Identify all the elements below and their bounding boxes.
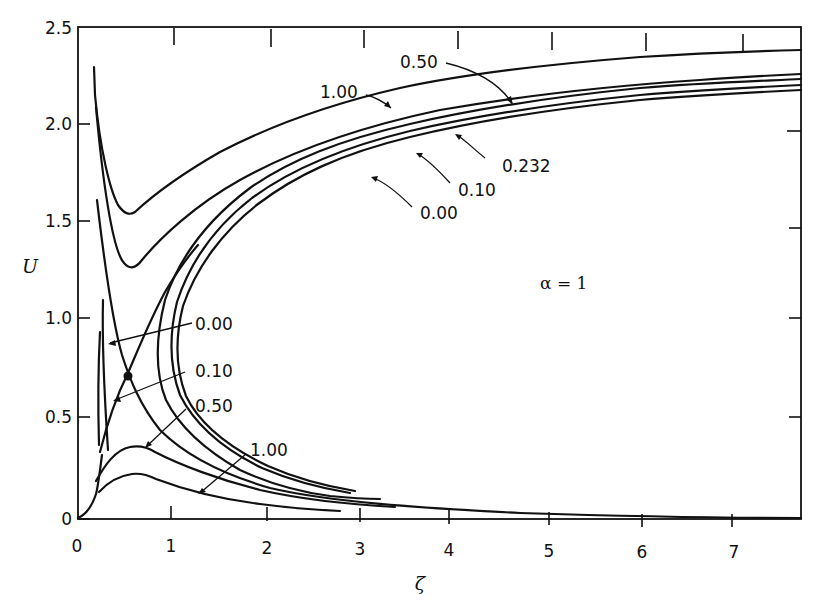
x-tick-5: 5 <box>544 541 555 561</box>
label-lower-0.00: 0.00 <box>195 314 233 334</box>
x-axis-top-ticks <box>174 28 743 52</box>
curve-upper-0.10 <box>172 85 801 493</box>
leader-upper-0.00 <box>373 178 412 207</box>
label-upper-0.232: 0.232 <box>502 156 551 176</box>
label-upper-0.50: 0.50 <box>400 52 438 72</box>
upper-curves <box>94 50 801 499</box>
plot-frame <box>78 27 801 519</box>
chart: 0 0.5 1.0 1.5 2.0 2.5 U 0 1 2 3 4 5 6 7 … <box>0 0 819 605</box>
curve-origin <box>78 455 102 518</box>
x-tick-6: 6 <box>637 542 648 562</box>
x-tick-7: 7 <box>729 542 740 562</box>
label-upper-0.00: 0.00 <box>420 203 458 223</box>
y-axis: 0 0.5 1.0 1.5 2.0 2.5 U <box>22 18 90 529</box>
y-tick-2.5: 2.5 <box>45 18 72 38</box>
y-tick-0: 0 <box>61 509 72 529</box>
leader-lower-0.50 <box>147 409 186 446</box>
x-tick-2: 2 <box>262 538 273 558</box>
y-tick-1.0: 1.0 <box>45 308 72 328</box>
lower-curves <box>78 446 395 518</box>
label-lower-0.10: 0.10 <box>195 361 233 381</box>
x-tick-4: 4 <box>444 540 455 560</box>
critical-point-marker <box>124 372 133 381</box>
alpha-annotation: α = 1 <box>540 273 587 293</box>
x-tick-1: 1 <box>166 536 177 556</box>
y-tick-1.5: 1.5 <box>45 211 72 231</box>
curve-upper-0.232 <box>158 79 801 499</box>
curve-left-0.00 <box>98 332 100 445</box>
y-axis-right-ticks <box>787 131 801 417</box>
upper-annotations: 1.00 0.50 0.232 0.10 0.00 <box>320 52 551 223</box>
y-tick-0.5: 0.5 <box>45 407 72 427</box>
curve-left-0.10 <box>103 300 108 450</box>
label-upper-1.00: 1.00 <box>320 82 358 102</box>
x-tick-0: 0 <box>72 536 83 556</box>
x-axis-title: ζ <box>415 572 427 594</box>
label-lower-1.00: 1.00 <box>250 440 288 460</box>
curve-upper-0.00 <box>178 90 801 491</box>
x-tick-3: 3 <box>355 539 366 559</box>
label-lower-0.50: 0.50 <box>195 396 233 416</box>
curve-upper-0.50 <box>96 74 801 267</box>
y-tick-2.0: 2.0 <box>45 114 72 134</box>
curve-descending <box>97 200 801 518</box>
curve-ascending <box>100 245 198 452</box>
curve-upper-1.00 <box>94 50 801 214</box>
leader-lower-0.00 <box>110 323 192 343</box>
y-axis-title: U <box>22 255 39 277</box>
leader-upper-0.10 <box>418 154 450 183</box>
label-upper-0.10: 0.10 <box>458 180 496 200</box>
leader-upper-0.232 <box>457 135 485 158</box>
crossing-curves <box>97 200 801 518</box>
leader-upper-0.50 <box>446 63 512 103</box>
